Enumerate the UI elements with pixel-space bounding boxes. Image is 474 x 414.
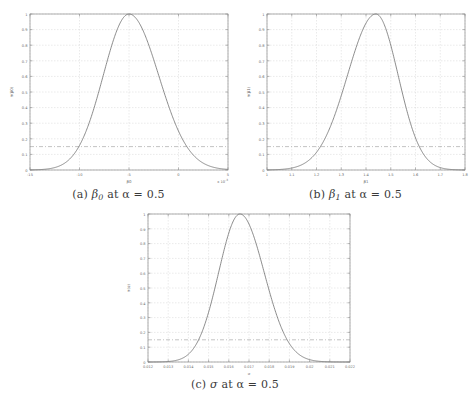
y-axis-title: π(σ) <box>126 284 131 292</box>
figure-panel-a: -15-10-50500.10.20.30.40.50.60.70.80.91π… <box>0 0 237 207</box>
x-tick-label: 0.02 <box>306 365 314 369</box>
x-tick-label: 0.021 <box>325 365 335 369</box>
chart-b: 11.11.21.31.41.51.61.71.800.10.20.30.40.… <box>237 0 474 186</box>
caption-c: (c) σ at α = 0.5 <box>110 378 360 391</box>
x-axis-title: σ <box>248 371 251 376</box>
figure-panel-c: 0.0120.0130.0140.0150.0160.0170.0180.019… <box>110 200 360 414</box>
y-tick-label: 0.6 <box>259 75 265 79</box>
figure-panel-b: 11.11.21.31.41.51.61.71.800.10.20.30.40.… <box>237 0 474 207</box>
x-axis-title: β1 <box>364 179 369 184</box>
y-tick-label: 0.6 <box>22 75 28 79</box>
plot-area-b: 11.11.21.31.41.51.61.71.800.10.20.30.40.… <box>237 0 474 207</box>
x-tick-label: 0.019 <box>284 365 294 369</box>
plot-area-a: -15-10-50500.10.20.30.40.50.60.70.80.91π… <box>0 0 237 207</box>
y-tick-label: 0.8 <box>140 242 146 246</box>
y-tick-label: 0.6 <box>140 272 146 276</box>
y-tick-label: 0.5 <box>259 91 265 95</box>
x-tick-label: -10 <box>77 173 84 177</box>
y-tick-label: 0.3 <box>140 316 146 320</box>
y-tick-label: 0 <box>262 169 265 173</box>
y-tick-label: 0.2 <box>22 138 28 142</box>
x-tick-label: 0.014 <box>183 365 194 369</box>
x-tick-label: 1.4 <box>363 173 369 177</box>
x-tick-label: 0.012 <box>143 365 153 369</box>
x-tick-label: 1.5 <box>388 173 394 177</box>
y-tick-label: 0.5 <box>140 287 146 291</box>
x-tick-label: 0.013 <box>163 365 173 369</box>
x-axis-multiplier: x 10-3 <box>217 178 228 184</box>
y-tick-label: 0.4 <box>259 106 265 110</box>
x-tick-label: 1 <box>266 173 268 177</box>
y-axis-title: π(β1) <box>246 86 251 97</box>
chart-a: -15-10-50500.10.20.30.40.50.60.70.80.91π… <box>0 0 237 186</box>
x-axis-title: β0 <box>127 179 132 184</box>
y-tick-label: 0.7 <box>259 60 265 64</box>
x-tick-label: 1.3 <box>338 173 344 177</box>
y-tick-label: 0.5 <box>22 91 28 95</box>
y-tick-label: 0.2 <box>140 331 146 335</box>
y-tick-label: 0.9 <box>140 228 146 232</box>
y-axis-title: π(β0) <box>9 86 14 97</box>
x-tick-label: -5 <box>127 173 131 177</box>
x-tick-label: 1.2 <box>314 173 320 177</box>
y-tick-label: 0.7 <box>22 60 28 64</box>
x-tick-label: 1.6 <box>413 173 419 177</box>
y-tick-label: 0.9 <box>22 28 28 32</box>
y-tick-label: 0.1 <box>22 153 28 157</box>
x-tick-label: 0.016 <box>224 365 234 369</box>
y-tick-label: 1 <box>25 13 27 17</box>
caption-c-rest: at α = 0.5 <box>221 378 279 391</box>
x-tick-label: 1.7 <box>437 173 443 177</box>
x-tick-label: 0.018 <box>264 365 274 369</box>
y-tick-label: 0.3 <box>259 122 265 126</box>
y-tick-label: 0.7 <box>140 257 146 261</box>
chart-c: 0.0120.0130.0140.0150.0160.0170.0180.019… <box>110 200 360 378</box>
y-tick-label: 0.8 <box>259 44 265 48</box>
y-tick-label: 0.1 <box>259 153 265 157</box>
caption-c-prefix: (c) <box>191 378 206 391</box>
y-tick-label: 1 <box>143 213 145 217</box>
y-tick-label: 0.4 <box>22 106 28 110</box>
caption-c-symbol: σ <box>210 378 218 391</box>
caption-a-prefix: (a) <box>72 188 88 201</box>
y-tick-label: 0.3 <box>22 122 28 126</box>
y-tick-label: 0.8 <box>22 44 28 48</box>
y-tick-label: 1 <box>262 13 264 17</box>
y-tick-label: 0.4 <box>140 302 146 306</box>
y-tick-label: 0.2 <box>259 138 265 142</box>
x-tick-label: 0.015 <box>204 365 214 369</box>
x-tick-label: 1.1 <box>289 173 295 177</box>
y-tick-label: 0.1 <box>140 346 146 350</box>
x-tick-label: 0.022 <box>345 365 355 369</box>
x-tick-label: 0.017 <box>244 365 254 369</box>
x-tick-label: 1.8 <box>462 173 468 177</box>
x-tick-label: -15 <box>27 173 33 177</box>
caption-a-sub: 0 <box>98 193 103 202</box>
x-tick-label: 0 <box>177 173 180 177</box>
x-tick-label: 5 <box>227 173 229 177</box>
y-tick-label: 0 <box>143 361 145 365</box>
y-tick-label: 0.9 <box>259 28 265 32</box>
